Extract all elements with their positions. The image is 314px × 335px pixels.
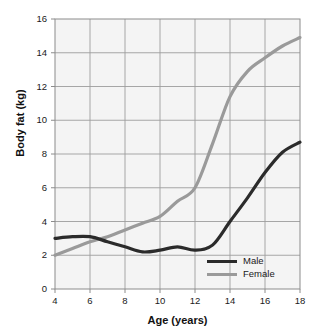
y-tick-label: 12: [25, 81, 47, 92]
x-tick-label: 18: [289, 295, 311, 306]
y-tick-label: 10: [25, 114, 47, 125]
x-tick-label: 10: [149, 295, 171, 306]
y-tick-label: 4: [25, 216, 47, 227]
legend-swatch-female: [207, 273, 237, 276]
y-axis-title: Body fat (kg): [14, 73, 26, 173]
legend-label-female: Female: [243, 268, 275, 279]
line-chart-plot: [0, 0, 314, 335]
x-tick-label: 6: [79, 295, 101, 306]
y-tick-label: 14: [25, 47, 47, 58]
x-tick-label: 8: [114, 295, 136, 306]
x-tick-label: 14: [219, 295, 241, 306]
y-tick-label: 0: [25, 283, 47, 294]
y-tick-label: 2: [25, 249, 47, 260]
legend-swatch-male: [207, 260, 237, 263]
x-tick-label: 16: [254, 295, 276, 306]
x-tick-label: 12: [184, 295, 206, 306]
y-tick-label: 8: [25, 148, 47, 159]
x-axis-title: Age (years): [55, 314, 300, 326]
y-tick-label: 16: [25, 13, 47, 24]
legend-label-male: Male: [243, 255, 264, 266]
x-tick-label: 4: [44, 295, 66, 306]
y-tick-label: 6: [25, 182, 47, 193]
chart-figure: 0246810121416 4681012141618 Body fat (kg…: [0, 0, 314, 335]
